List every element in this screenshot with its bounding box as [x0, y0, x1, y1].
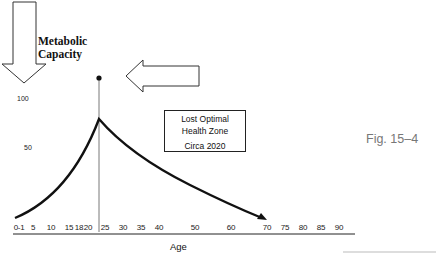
x-tick: 10: [47, 223, 55, 232]
x-tick: 75: [281, 223, 289, 232]
x-tick: 40: [155, 223, 163, 232]
x-tick: 70: [263, 223, 271, 232]
y-tick-100: 100: [17, 95, 29, 102]
x-tick: 35: [137, 223, 145, 232]
x-tick: 90: [335, 223, 343, 232]
x-tick: 50: [191, 223, 199, 232]
x-tick: 15: [65, 223, 73, 232]
y-tick-50: 50: [24, 144, 32, 151]
box-line1: Lost Optimal: [165, 113, 245, 125]
x-tick: 80: [299, 223, 307, 232]
x-tick: 60: [227, 223, 235, 232]
x-tick: 85: [317, 223, 325, 232]
x-tick: 5: [31, 223, 35, 232]
y-axis-label-line1: Metabolic: [38, 35, 87, 48]
x-tick: 20: [84, 223, 92, 232]
y-axis-label-line2: Capacity: [38, 48, 87, 61]
figure-label: Fig. 15–4: [366, 132, 418, 146]
lost-optimal-health-zone-box: Lost Optimal Health Zone Circa 2020: [164, 110, 246, 152]
x-axis-label: Age: [170, 241, 187, 252]
y-axis-label: Metabolic Capacity: [38, 35, 87, 61]
x-tick: 0-1: [14, 223, 25, 232]
x-tick: 25: [101, 223, 109, 232]
box-line3: Circa 2020: [165, 140, 245, 152]
left-arrow-icon: [126, 60, 199, 92]
x-tick: 18: [75, 223, 83, 232]
x-tick: 30: [119, 223, 127, 232]
box-line2: Health Zone: [165, 125, 245, 137]
reference-dot: [96, 75, 101, 80]
